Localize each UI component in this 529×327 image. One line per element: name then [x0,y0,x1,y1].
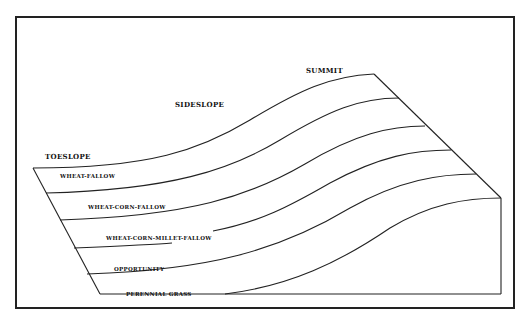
contour-line-4a [74,243,172,248]
toeslope-label: TOESLOPE [45,152,91,161]
zone-label-wheat-corn-millet-fallow: WHEAT-CORN-MILLET-FALLOW [106,235,212,241]
left-edge [33,168,100,294]
zone-label-wheat-corn-fallow: WHEAT-CORN-FALLOW [88,204,166,210]
contour-line-6 [225,198,501,294]
landscape-diagram [0,0,529,327]
sideslope-label: SIDESLOPE [175,100,224,109]
summit-label: SUMMIT [306,66,343,75]
zone-label-opportunity: OPPORTUNITY [114,266,164,272]
contour-line-5 [87,174,476,274]
zone-label-wheat-fallow: WHEAT-FALLOW [60,173,115,179]
zone-label-perennial-grass: PERENNIAL GRASS [126,291,192,297]
right-edge [374,74,501,198]
